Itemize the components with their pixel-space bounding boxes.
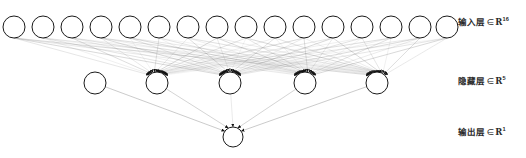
- edge-input-2-to-hidden-1: [72, 38, 151, 74]
- input-node-9: [264, 16, 286, 38]
- hidden-node-3: [294, 72, 316, 94]
- output-layer-membership-symbol: ∈: [486, 127, 496, 137]
- hidden-layer-label-text: 隐藏层: [458, 76, 486, 86]
- output-layer-label-text: 输出层: [458, 127, 486, 137]
- input-node-15: [436, 16, 458, 38]
- hidden-layer-membership-symbol: ∈: [486, 76, 496, 86]
- output-layer-nodes: [223, 127, 243, 147]
- edge-input-4-to-hidden-2: [130, 38, 226, 73]
- input-layer-label-text: 输入层: [458, 17, 486, 27]
- hidden-node-2: [219, 72, 241, 94]
- input-layer-label: 输入层∈R16: [458, 17, 509, 26]
- edge-hidden-2-to-output-0: [231, 94, 233, 127]
- edge-input-2-to-hidden-4: [72, 38, 371, 74]
- hidden-node-4: [366, 72, 388, 94]
- input-node-7: [206, 16, 228, 38]
- input-node-1: [32, 16, 54, 38]
- edge-input-14-to-hidden-4: [384, 38, 420, 74]
- output-node-0: [223, 127, 243, 147]
- edge-hidden-1-to-output-0: [166, 89, 228, 128]
- input-node-4: [119, 16, 141, 38]
- edge-input-13-to-hidden-2: [236, 38, 391, 74]
- input-node-3: [90, 16, 112, 38]
- edge-input-1-to-hidden-2: [43, 38, 223, 74]
- input-node-14: [409, 16, 431, 38]
- input-node-2: [61, 16, 83, 38]
- edge-input-0-to-hidden-3: [14, 38, 298, 75]
- input-layer-dimension: 16: [502, 16, 509, 22]
- input-node-6: [177, 16, 199, 38]
- input-node-12: [351, 16, 373, 38]
- edges-hidden-to-output: [105, 87, 366, 132]
- input-node-8: [235, 16, 257, 38]
- input-node-5: [148, 16, 170, 38]
- network-graph-canvas: [0, 0, 526, 158]
- edges-input-to-hidden: [14, 38, 447, 75]
- input-layer-membership-symbol: ∈: [486, 17, 496, 27]
- input-node-11: [322, 16, 344, 38]
- neural-network-diagram: 输入层∈R16 隐藏层∈R5 输出层∈R1: [0, 0, 526, 158]
- edge-hidden-0-to-output-0: [105, 87, 225, 131]
- input-layer-nodes: [3, 16, 458, 38]
- input-node-13: [380, 16, 402, 38]
- hidden-node-0: [84, 72, 106, 94]
- hidden-layer-nodes: [84, 72, 388, 94]
- output-layer-label: 输出层∈R1: [458, 127, 506, 136]
- hidden-layer-dimension: 5: [502, 75, 505, 81]
- input-node-10: [293, 16, 315, 38]
- output-layer-dimension: 1: [502, 126, 505, 132]
- hidden-node-1: [146, 72, 168, 94]
- input-node-0: [3, 16, 25, 38]
- edge-input-7-to-hidden-2: [217, 38, 229, 72]
- hidden-layer-label: 隐藏层∈R5: [458, 76, 506, 85]
